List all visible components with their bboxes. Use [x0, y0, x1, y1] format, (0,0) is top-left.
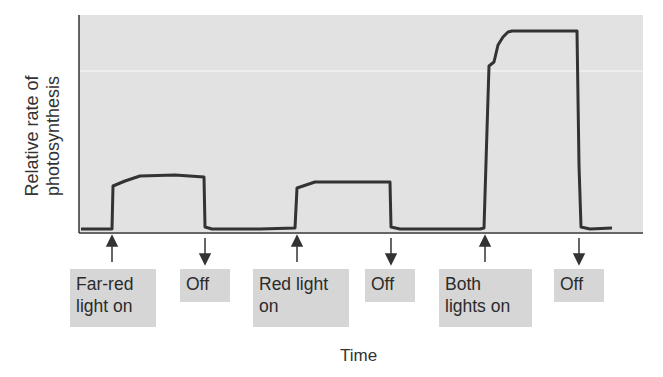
event-label-off-3: Off: [554, 269, 604, 302]
event-label-line: Off: [560, 273, 598, 295]
event-label-line: lights on: [445, 295, 526, 317]
event-label-far-red-on: Far-red light on: [70, 269, 156, 327]
event-arrows: [107, 236, 584, 264]
event-label-off-2: Off: [365, 269, 415, 302]
plot-area: [79, 15, 643, 232]
event-label-line: Both: [445, 273, 526, 295]
event-label-line: Red light: [259, 273, 343, 295]
x-axis-label: Time: [340, 346, 377, 366]
y-axis-label: Relative rate of photosynthesis: [22, 41, 64, 231]
event-label-line: on: [259, 295, 343, 317]
event-label-line: Off: [371, 273, 409, 295]
event-label-both-on: Both lights on: [439, 269, 532, 327]
event-label-off-1: Off: [180, 269, 230, 302]
event-label-line: light on: [76, 295, 150, 317]
event-label-line: Far-red: [76, 273, 150, 295]
event-label-red-on: Red light on: [253, 269, 349, 327]
event-label-line: Off: [186, 273, 224, 295]
